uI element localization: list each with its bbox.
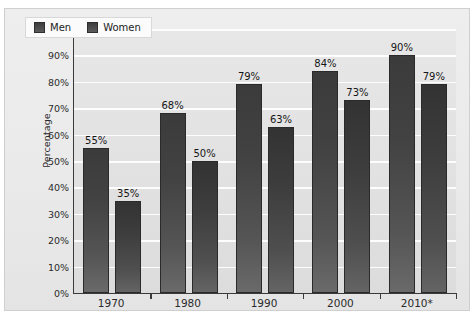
bar-women-2000[interactable] [344,100,370,293]
bar-value-label: 73% [335,87,379,98]
legend-label: Women [103,22,141,33]
x-axis-tick-label: 1970 [76,297,146,309]
bar-men-2000[interactable] [312,71,338,293]
x-axis-tick-label: 1980 [153,297,223,309]
bar-value-label: 84% [303,58,347,69]
y-axis-tick-label: 90% [29,50,69,61]
y-axis-tick-label: 70% [29,103,69,114]
bar-women-1980[interactable] [192,161,218,293]
y-axis-tick-label: 10% [29,261,69,272]
bar-value-label: 90% [380,42,424,53]
y-axis-tick-label: 0% [29,288,69,299]
y-axis-tick-label: 30% [29,208,69,219]
chart-legend: Men Women [25,17,152,38]
bar-value-label: 79% [227,71,271,82]
bar-value-label: 63% [259,114,303,125]
bar-value-label: 55% [74,135,118,146]
bar-value-label: 50% [183,148,227,159]
legend-item-men[interactable]: Men [34,22,71,33]
y-axis-tick-label: 50% [29,156,69,167]
y-axis-tick-labels: 0%10%20%30%40%50%60%70%80%90%100% [29,29,69,293]
bar-men-1980[interactable] [160,113,186,293]
bar-women-2010[interactable] [421,84,447,293]
legend-label: Men [50,22,71,33]
plot-region: 55%35%68%50%79%63%84%73%90%79% [73,29,456,294]
x-axis-tick-label: 2010* [382,297,452,309]
bar-women-1990[interactable] [268,127,294,293]
bar-value-label: 68% [151,100,195,111]
bar-chart: Percentage 0%10%20%30%40%50%60%70%80%90%… [0,0,474,324]
legend-swatch-icon [34,22,45,33]
bar-value-label: 79% [412,71,456,82]
legend-item-women[interactable]: Women [87,22,141,33]
x-axis-tick-labels: 19701980199020002010* [73,297,455,317]
y-axis-tick-label: 40% [29,182,69,193]
y-axis-tick-label: 80% [29,76,69,87]
bar-men-1970[interactable] [83,148,109,293]
x-axis-tick [456,293,457,299]
x-axis-tick-label: 2000 [305,297,375,309]
bar-women-1970[interactable] [115,201,141,293]
x-axis-tick-label: 1990 [229,297,299,309]
y-axis-tick-label: 20% [29,235,69,246]
bar-value-label: 35% [106,188,150,199]
y-axis-tick-label: 60% [29,129,69,140]
chart-plot-area-frame: Percentage 0%10%20%30%40%50%60%70%80%90%… [4,8,470,311]
bar-men-2010[interactable] [389,55,415,293]
legend-swatch-icon [87,22,98,33]
